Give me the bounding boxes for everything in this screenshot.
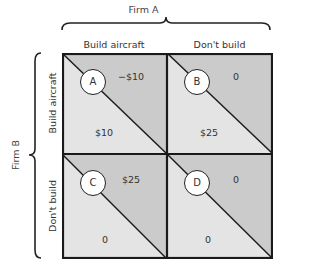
payoff-matrix: A −$10 $10 B 0 $25 C $25 0 D 0 0 [62,53,273,259]
row-strategy-build: Build aircraft [47,73,58,134]
column-strategy-build: Build aircraft [62,39,166,50]
row-strategy-dont-build: Don't build [47,180,58,232]
matrix-grid-lines [62,53,273,259]
column-strategy-dont-build: Don't build [166,39,273,50]
